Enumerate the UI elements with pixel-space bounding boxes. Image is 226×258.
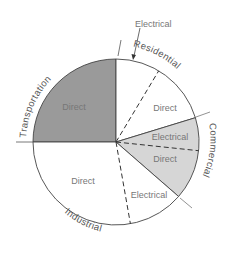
industrial-electrical-label: Electrical (131, 190, 168, 200)
tick-commercial-bottom (180, 198, 192, 208)
tick-top (118, 40, 121, 56)
residential-direct-label: Direct (153, 103, 177, 113)
transportation-direct-label: Direct (62, 102, 86, 112)
commercial-direct-label: Direct (153, 154, 177, 164)
arrow-head-icon (132, 54, 137, 60)
slice-transportation (33, 59, 116, 142)
category-commercial: Commercial (201, 122, 220, 179)
pie-chart: Electrical Direct Direct Electrical Dire… (0, 0, 226, 258)
tick-commercial-top (196, 112, 210, 117)
industrial-direct-label: Direct (71, 176, 95, 186)
residential-electrical-callout: Electrical (135, 19, 172, 29)
commercial-electrical-label: Electrical (152, 132, 189, 142)
